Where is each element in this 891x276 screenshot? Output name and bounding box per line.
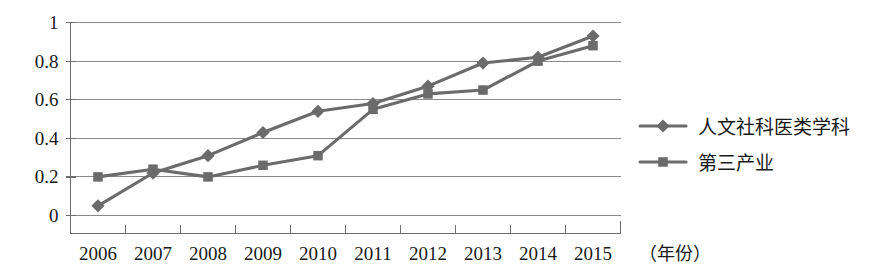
- x-tick-label-2013: 2013: [464, 243, 502, 264]
- data-point-marker: [313, 151, 323, 161]
- x-tick-label-2009: 2009: [244, 243, 282, 264]
- line-chart: 00.20.40.60.81 2006200720082009201020112…: [0, 0, 891, 276]
- chart-canvas: 00.20.40.60.81 2006200720082009201020112…: [0, 0, 891, 276]
- y-tick-label: 0.8: [35, 51, 59, 72]
- y-tick-label: 0.2: [35, 166, 59, 187]
- data-point-marker: [423, 89, 433, 99]
- data-point-marker: [588, 41, 598, 51]
- x-axis-title-label: （年份）: [639, 243, 711, 264]
- x-tick-label-2008: 2008: [189, 243, 227, 264]
- data-point-marker: [368, 105, 378, 115]
- x-tick-label-2015: 2015: [574, 243, 612, 264]
- data-point-marker: [203, 172, 213, 182]
- legend-label: 第三产业: [698, 152, 774, 174]
- x-tick-label-2010: 2010: [299, 243, 337, 264]
- y-tick-label: 0.6: [35, 89, 59, 110]
- legend-square-marker-icon: [658, 157, 668, 167]
- x-axis-title: （年份）: [639, 243, 711, 264]
- x-tick-label-2007: 2007: [134, 243, 172, 264]
- y-tick-label: 0: [49, 205, 59, 226]
- data-point-marker: [93, 172, 103, 182]
- x-tick-label-2014: 2014: [519, 243, 558, 264]
- legend-label: 人文社科医类学科: [698, 116, 850, 138]
- x-tick-label-2012: 2012: [409, 243, 447, 264]
- y-tick-label: 0.4: [35, 128, 59, 149]
- data-point-marker: [533, 56, 543, 66]
- data-point-marker: [258, 161, 268, 171]
- x-tick-label-2006: 2006: [79, 243, 117, 264]
- y-tick-label: 1: [49, 12, 59, 33]
- data-point-marker: [478, 85, 488, 95]
- x-tick-label-2011: 2011: [354, 243, 391, 264]
- data-point-marker: [148, 164, 158, 174]
